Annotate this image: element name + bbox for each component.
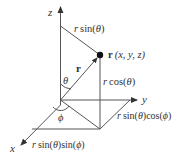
y-axis-label: y	[141, 93, 147, 105]
r-sin-theta-sin-phi-label: rsin(θ)sin(ϕ)	[32, 139, 85, 151]
vector-r-label: r	[76, 62, 81, 74]
projection-line	[61, 100, 101, 129]
point-label: r(x, y, z)	[108, 49, 145, 61]
r-sin-theta-label: rsin(θ)	[74, 23, 105, 35]
z-axis-label: z	[47, 6, 53, 18]
spherical-coordinates-diagram: z y x rsin(θ) r(x, y, z) r θ rcos(θ) ϕ r…	[0, 0, 182, 159]
r-sin-theta-cos-phi-label: rsin(θ)cos(ϕ)	[117, 110, 171, 122]
point-r	[97, 52, 103, 58]
theta-label: θ	[63, 75, 68, 86]
x-axis-label: x	[9, 142, 15, 154]
r-cos-theta-label: rcos(θ)	[103, 76, 136, 88]
phi-label: ϕ	[58, 112, 64, 123]
